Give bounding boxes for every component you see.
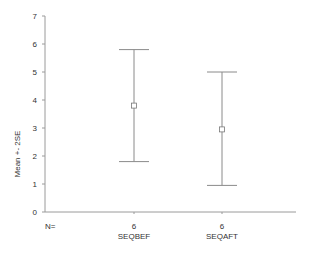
y-tick-label: 1 xyxy=(33,180,38,189)
error-bar-seqaft: 6SEQAFT xyxy=(206,72,238,241)
y-tick-label: 2 xyxy=(33,152,38,161)
category-label: SEQBEF xyxy=(118,232,151,241)
n-value: 6 xyxy=(220,222,225,231)
y-tick-label: 4 xyxy=(33,96,38,105)
y-tick-label: 5 xyxy=(33,68,38,77)
n-label: N= xyxy=(45,222,56,231)
y-axis-title: Mean +- 2SE xyxy=(13,131,22,178)
mean-marker xyxy=(132,103,137,108)
mean-marker xyxy=(220,127,225,132)
error-bar-chart: 01234567 6SEQBEF6SEQAFT Mean +- 2SE N= xyxy=(0,0,311,253)
y-axis: 01234567 xyxy=(33,12,45,217)
y-tick-label: 0 xyxy=(33,208,38,217)
n-value: 6 xyxy=(132,222,137,231)
y-tick-label: 3 xyxy=(33,124,38,133)
y-tick-label: 7 xyxy=(33,12,38,21)
category-label: SEQAFT xyxy=(206,232,238,241)
y-tick-label: 6 xyxy=(33,40,38,49)
